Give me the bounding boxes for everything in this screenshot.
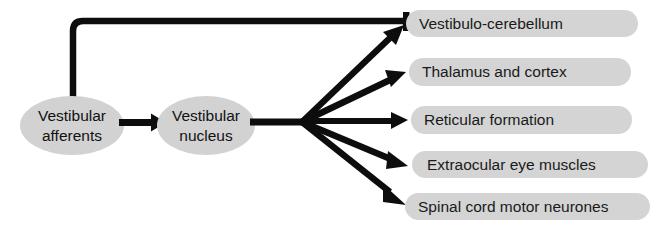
vestibular-nucleus-label-line2: nucleus [179, 127, 233, 144]
vestibulo-cerebellum-label: Vestibulo-cerebellum [419, 15, 563, 32]
target-extraocular-eye-muscles[interactable]: Extraocular eye muscles [412, 151, 648, 178]
target-spinal-cord-motor-neurones[interactable]: Spinal cord motor neurones [405, 193, 650, 220]
target-reticular-formation[interactable]: Reticular formation [411, 106, 632, 134]
reticular-formation-label: Reticular formation [424, 111, 554, 128]
spinal-cord-motor-neurones-label: Spinal cord motor neurones [418, 198, 609, 215]
target-vestibulo-cerebellum[interactable]: Vestibulo-cerebellum [406, 10, 638, 37]
hub-to-extraocular-eye-muscles-arrowhead [386, 151, 408, 169]
hub-to-thalamus-and-cortex-line [302, 79, 392, 122]
hub-to-spinal-cord-motor-neurones-line [302, 122, 390, 192]
hub-to-vestibulo-cerebellum-line [302, 36, 392, 122]
connector-hub-to-thalamus-and-cortex [302, 70, 406, 122]
vestibular-afferents-label-line1: Vestibular [38, 107, 106, 124]
thalamus-and-cortex-label: Thalamus and cortex [422, 63, 567, 80]
node-vestibular-afferents[interactable]: Vestibular afferents [20, 96, 124, 155]
vestibular-nucleus-ellipse [157, 96, 255, 155]
hub-to-reticular-formation-arrowhead [391, 112, 408, 129]
target-thalamus-and-cortex[interactable]: Thalamus and cortex [409, 58, 631, 86]
node-vestibular-nucleus[interactable]: Vestibular nucleus [157, 96, 255, 155]
vestibular-afferents-label-line2: afferents [42, 127, 102, 144]
vestibular-afferents-ellipse [20, 96, 124, 155]
vestibular-pathway-diagram: Vestibular afferents Vestibular nucleus [0, 0, 664, 228]
diagram-canvas: Vestibular afferents Vestibular nucleus [0, 0, 664, 228]
hub-to-thalamus-and-cortex-arrowhead [385, 70, 406, 87]
extraocular-eye-muscles-label: Extraocular eye muscles [427, 156, 596, 173]
vestibular-nucleus-label-line1: Vestibular [172, 107, 240, 124]
